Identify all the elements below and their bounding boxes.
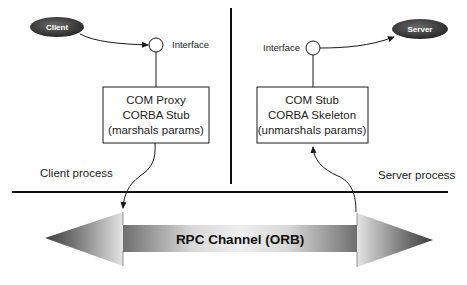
server-box-line-1: COM Stub bbox=[285, 94, 339, 106]
server-box-line-2: CORBA Skeleton bbox=[268, 109, 356, 121]
rpc-channel-label: RPC Channel (ORB) bbox=[176, 232, 304, 247]
client-proxy-box: COM Proxy CORBA Stub (marshals params) bbox=[103, 87, 209, 143]
client-box-to-channel-connector bbox=[123, 143, 155, 208]
rpc-channel-arrow: RPC Channel (ORB) bbox=[45, 212, 433, 267]
server-interface-label: Interface bbox=[263, 42, 300, 53]
client-box-line-1: COM Proxy bbox=[126, 94, 186, 106]
server-process-label: Server process bbox=[378, 169, 456, 181]
client-node-label: Client bbox=[46, 23, 69, 32]
client-interface-icon bbox=[149, 38, 163, 52]
server-box-line-3: (unmarshals params) bbox=[258, 124, 367, 136]
client-process-label: Client process bbox=[40, 167, 113, 179]
server-node-label: Server bbox=[408, 25, 433, 34]
channel-to-server-box-connector bbox=[313, 147, 356, 212]
client-node: Client bbox=[30, 17, 84, 37]
server-interface-icon bbox=[306, 41, 320, 55]
interface-to-server-connector bbox=[320, 37, 394, 48]
com-corba-rpc-diagram: Client Interface COM Proxy CORBA Stub (m… bbox=[0, 0, 467, 285]
client-box-line-2: CORBA Stub bbox=[122, 109, 189, 121]
server-node: Server bbox=[392, 19, 448, 39]
client-to-interface-connector bbox=[80, 34, 148, 45]
client-box-line-3: (marshals params) bbox=[108, 124, 204, 136]
server-stub-box: COM Stub CORBA Skeleton (unmarshals para… bbox=[257, 87, 368, 143]
client-interface-label: Interface bbox=[172, 39, 209, 50]
